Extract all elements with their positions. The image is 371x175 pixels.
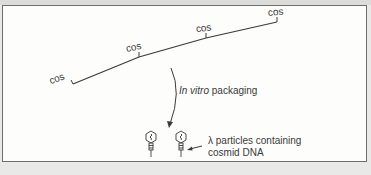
cos-label-1: cos (48, 70, 66, 86)
cos-label-2: cos (125, 40, 143, 54)
packaging-label: In vitro packaging (179, 85, 257, 96)
packaging-text: packaging (209, 85, 257, 96)
particle-label-line2: cosmid DNA (208, 147, 264, 158)
cos-label-4: cos (267, 5, 284, 18)
pointer-arrowhead-icon (187, 147, 193, 151)
concatemer-dna-line (73, 22, 277, 84)
packaging-arrow (170, 68, 176, 124)
arrowhead-icon (167, 121, 173, 128)
lambda-phage-icon (146, 131, 156, 157)
cos-label-3: cos (195, 21, 212, 34)
cos-ticks (71, 17, 277, 84)
lambda-phage-icon (176, 131, 186, 157)
cosmid-packaging-diagram: cos cos cos cos In vitro packaging λ par… (0, 0, 371, 175)
particle-label-line1: λ particles containing (208, 135, 301, 146)
in-vitro-text: In vitro (179, 85, 209, 96)
